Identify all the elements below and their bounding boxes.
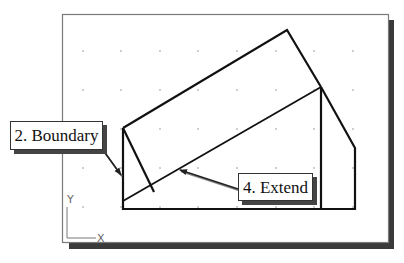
grid-dot bbox=[120, 206, 122, 208]
grid-dot bbox=[236, 50, 238, 52]
grid-dot bbox=[236, 206, 238, 208]
grid-dot bbox=[236, 128, 238, 130]
grid-dot bbox=[197, 50, 199, 52]
grid-dot bbox=[120, 50, 122, 52]
grid-dot bbox=[352, 206, 354, 208]
grid-dot bbox=[313, 167, 315, 169]
grid-dot bbox=[120, 89, 122, 91]
grid-dot bbox=[275, 50, 277, 52]
grid-dot bbox=[159, 206, 161, 208]
grid-dot bbox=[352, 167, 354, 169]
grid-dot bbox=[352, 50, 354, 52]
grid-dot bbox=[197, 128, 199, 130]
grid-dot bbox=[159, 89, 161, 91]
grid-dot bbox=[197, 167, 199, 169]
grid-dot bbox=[159, 128, 161, 130]
grid-dot bbox=[120, 167, 122, 169]
grid-dot bbox=[82, 167, 84, 169]
grid-dot bbox=[236, 89, 238, 91]
grid-dot bbox=[159, 50, 161, 52]
grid-dot bbox=[197, 89, 199, 91]
callout-boundary: 2. Boundary bbox=[10, 121, 103, 150]
callout-boundary-label: 2. Boundary bbox=[14, 127, 98, 144]
grid-dot bbox=[275, 206, 277, 208]
grid-dot bbox=[82, 50, 84, 52]
grid-dot bbox=[313, 206, 315, 208]
grid-dot bbox=[313, 128, 315, 130]
callout-extend-label: 4. Extend bbox=[243, 179, 308, 196]
grid-dot bbox=[120, 128, 122, 130]
grid-dot bbox=[275, 89, 277, 91]
ucs-x-label: X bbox=[97, 232, 105, 245]
grid-dot bbox=[82, 89, 84, 91]
grid-dot bbox=[352, 128, 354, 130]
grid-dot bbox=[236, 167, 238, 169]
grid-dot bbox=[313, 50, 315, 52]
grid-dot bbox=[197, 206, 199, 208]
callout-extend: 4. Extend bbox=[238, 173, 313, 201]
grid-dot bbox=[352, 89, 354, 91]
grid-dot bbox=[82, 206, 84, 208]
grid-dot bbox=[159, 167, 161, 169]
cad-drawing-canvas: Y X 2. Boundary 4. Extend bbox=[0, 0, 404, 263]
grid-dot bbox=[275, 167, 277, 169]
grid-dot bbox=[275, 128, 277, 130]
ucs-y-label: Y bbox=[66, 193, 74, 206]
